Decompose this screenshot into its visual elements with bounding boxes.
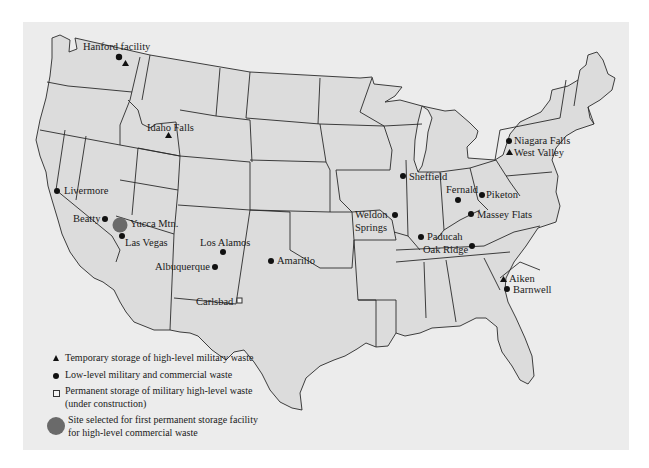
site-marker-beatty[interactable] <box>102 216 108 222</box>
site-label-fernald[interactable]: Fernald <box>446 184 479 195</box>
site-label-yucca-mtn[interactable]: Yucca Mtn. <box>130 218 178 229</box>
site-marker-weldon-springs[interactable] <box>392 212 398 218</box>
site-marker-carlsbad[interactable] <box>237 298 242 303</box>
site-label-weldon[interactable]: Weldon <box>355 209 388 220</box>
site-marker-barnwell[interactable] <box>504 286 510 292</box>
site-marker-oak-ridge[interactable] <box>469 243 475 249</box>
square-icon <box>50 385 62 397</box>
site-marker-amarillo[interactable] <box>268 258 274 264</box>
site-label-beatty[interactable]: Beatty <box>73 213 101 224</box>
triangle-icon <box>50 352 62 364</box>
site-marker-west-valley-triangle[interactable] <box>506 149 513 155</box>
site-marker-paducah[interactable] <box>418 234 424 240</box>
site-label-idaho-falls[interactable]: Idaho Falls <box>147 122 194 133</box>
site-label-springs[interactable]: Springs <box>355 222 387 233</box>
legend-item-low-level: Low-level military and commercial waste <box>50 369 320 382</box>
site-label-los-alamos[interactable]: Los Alamos <box>200 237 250 248</box>
map-legend: Temporary storage of high-level military… <box>50 352 320 443</box>
site-marker-hanford-circle[interactable] <box>116 54 122 60</box>
circle-icon <box>50 369 62 381</box>
site-label-paducah[interactable]: Paducah <box>427 231 463 242</box>
site-label-livermore[interactable]: Livermore <box>64 185 109 196</box>
large-circle-icon <box>46 414 66 438</box>
legend-text: Site selected for first permanent storag… <box>68 414 258 439</box>
site-label-las-vegas[interactable]: Las Vegas <box>125 237 168 248</box>
site-marker-hanford-triangle[interactable] <box>122 60 129 66</box>
legend-item-permanent-military: Permanent storage of military high-level… <box>50 385 320 410</box>
legend-text: Low-level military and commercial waste <box>65 369 232 382</box>
site-marker-sheffield[interactable] <box>400 173 406 179</box>
site-marker-livermore[interactable] <box>54 188 60 194</box>
site-marker-los-alamos[interactable] <box>220 249 226 255</box>
site-label-west-valley[interactable]: West Valley <box>514 147 565 158</box>
site-marker-albuquerque[interactable] <box>212 264 218 270</box>
site-marker-piketon[interactable] <box>479 192 485 198</box>
legend-item-selected-site: Site selected for first permanent storag… <box>50 414 320 439</box>
site-label-carlsbad[interactable]: Carlsbad <box>196 296 234 307</box>
site-label-sheffield[interactable]: Sheffield <box>409 171 448 182</box>
site-marker-aiken-triangle[interactable] <box>500 276 507 282</box>
site-marker-niagara-falls[interactable] <box>506 138 512 144</box>
site-label-barnwell[interactable]: Barnwell <box>513 284 552 295</box>
site-marker-yucca-mtn[interactable] <box>113 218 128 233</box>
site-label-massey-flats[interactable]: Massey Flats <box>477 209 532 220</box>
legend-text: Temporary storage of high-level military… <box>65 352 253 365</box>
site-marker-fernald[interactable] <box>455 197 461 203</box>
site-label-aiken[interactable]: Aiken <box>509 273 535 284</box>
site-label-albuquerque[interactable]: Albuquerque <box>155 261 210 272</box>
site-label-niagara-falls[interactable]: Niagara Falls <box>514 135 570 146</box>
legend-item-temporary-military: Temporary storage of high-level military… <box>50 352 320 365</box>
site-label-piketon[interactable]: Piketon <box>486 189 519 200</box>
site-label-oak-ridge[interactable]: Oak Ridge <box>423 244 469 255</box>
site-label-hanford[interactable]: Hanford facility <box>83 41 151 52</box>
legend-text: Permanent storage of military high-level… <box>65 385 252 410</box>
site-label-amarillo[interactable]: Amarillo <box>277 255 315 266</box>
site-marker-massey-flats[interactable] <box>468 211 474 217</box>
